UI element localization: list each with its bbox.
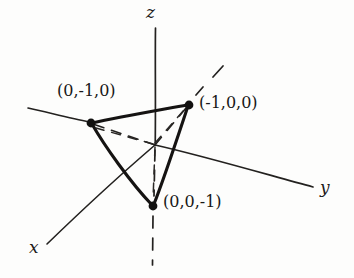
vertex-dot-0-minus1-0 [87,119,96,128]
axis-label-z: z [146,2,155,22]
x-axis-positive-line [47,145,155,244]
vertex-dot-minus1-0-0 [185,101,194,110]
x-axis-negative-dashed-outer-2 [213,66,223,77]
y-axis-negative-extension [28,108,89,122]
vertex-label-0-0-minus1: (0,0,-1) [163,192,222,211]
triangle-edge-top [92,105,187,123]
vertex-label-minus1-0-0: (-1,0,0) [199,93,258,112]
triangle-edge-right [154,106,188,204]
z-axis-negative-dashed-tail [153,216,154,265]
coordinate-diagram-figure: z y x (0,-1,0) (-1,0,0) (0,0,-1) [0,0,354,278]
vertex-dot-0-0-minus1 [149,202,158,211]
diagram-canvas [0,0,354,278]
vertex-label-0-minus1-0: (0,-1,0) [57,81,116,100]
axis-label-x: x [29,237,39,257]
y-axis-positive-line [155,145,313,187]
axis-label-y: y [320,177,330,197]
